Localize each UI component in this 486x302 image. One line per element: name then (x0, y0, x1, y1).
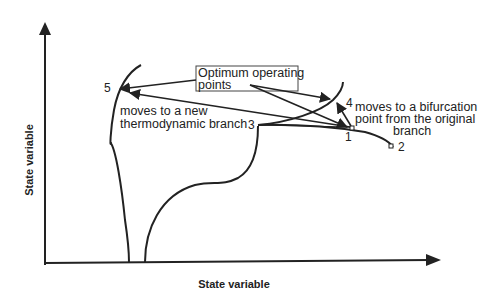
y-axis-arrow-icon (39, 22, 51, 35)
bifurcation-diagram: State variable State variable Optimum op… (0, 0, 486, 302)
x-axis-arrow-icon (426, 254, 441, 266)
x-axis (45, 254, 441, 266)
new-branch-annotation-2: thermodynamic branch (120, 117, 247, 131)
bifurcation-annotation-3: branch (393, 124, 431, 138)
callout-line-2: points (198, 78, 231, 92)
y-axis-label: State variable (23, 124, 35, 196)
x-axis-label: State variable (198, 278, 270, 290)
point-4-label: 4 (346, 96, 353, 110)
arrow-to-5 (120, 80, 196, 89)
new-branch-annotation-1: moves to a new (120, 104, 209, 118)
original-branch-curve (145, 125, 393, 262)
optimum-points-callout: Optimum operating points (196, 66, 304, 92)
point-2-marker (389, 144, 393, 148)
point-1-label: 1 (345, 130, 352, 144)
point-2-label: 2 (398, 140, 405, 154)
point-3-label: 3 (248, 118, 255, 132)
point-5-label: 5 (104, 81, 111, 95)
y-axis (39, 22, 51, 265)
